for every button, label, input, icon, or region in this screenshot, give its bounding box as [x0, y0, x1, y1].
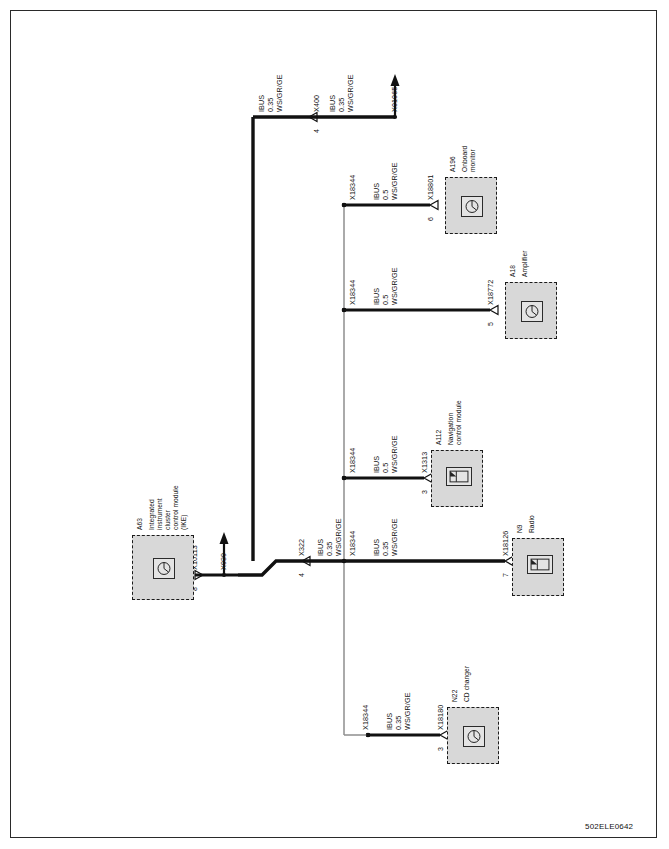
connector-label-x18126: X18126 [502, 531, 510, 556]
component-ref-cd-changer: N22 [451, 690, 459, 702]
component-box-navigation[interactable] [431, 450, 483, 507]
wire-color: WS/GR/GE [276, 74, 284, 112]
wire-bus-name: IBUS [258, 95, 266, 112]
wiring-lines [0, 0, 669, 849]
component-box-amplifier[interactable] [505, 282, 557, 339]
connector-label-x01065: X01065 [391, 87, 399, 112]
wire-label-ike-gauge: 0.35 [326, 542, 334, 556]
module-round-icon [461, 196, 483, 217]
wire-label-nav-gauge: 0.5 [382, 463, 390, 473]
junction-x01065 [393, 115, 397, 119]
pin-label-x18801: 6 [427, 217, 434, 221]
splice-label-x18344-main: X18344 [349, 531, 357, 556]
connector-label-x322: X322 [298, 539, 306, 556]
component-box-cd-changer[interactable] [447, 707, 499, 764]
wire-label-monitor-color: WS/GR/GE [391, 162, 399, 200]
wire-label-top-left: IBUS [258, 95, 266, 112]
wire-label-cd-bus: IBUS [386, 713, 394, 730]
wire-label-top-left-color: WS/GR/GE [276, 74, 284, 112]
connector-label-x18801: X18801 [427, 175, 435, 200]
component-name-ike-l2: instrument [156, 498, 164, 530]
component-ref-navigation: A112 [435, 430, 443, 445]
pin-label-x322: 4 [298, 573, 305, 577]
component-name-onboard-monitor-l1: Onboard [461, 146, 469, 172]
component-name-ike-l1: Integrated [148, 499, 156, 530]
wire-label-cd-color: WS/GR/GE [404, 692, 412, 730]
wire-label-radio-gauge: 0.35 [382, 542, 390, 556]
wire-gauge: 0.35 [267, 98, 275, 112]
connector-label-x18180: X18180 [437, 705, 445, 730]
connector-marker-x18772 [490, 306, 498, 315]
wire-label-ike-color: WS/GR/GE [335, 518, 343, 556]
connector-label-x18772: X18772 [487, 280, 495, 305]
wire-label-top-right: IBUS [329, 95, 337, 112]
connector-label-x939: X939 [220, 553, 228, 570]
component-ref-onboard-monitor: A196 [449, 156, 457, 172]
connector-marker-x18801 [430, 201, 438, 210]
module-round-icon [153, 558, 175, 579]
module-screen-icon [527, 555, 553, 574]
pin-label-x18126: 7 [502, 573, 509, 577]
pin-label-x18772: 5 [487, 322, 494, 326]
component-name-navigation-l1: Navigation [447, 413, 455, 445]
endcap-cdchanger [366, 733, 370, 737]
component-box-radio[interactable] [512, 538, 564, 596]
component-box-ike[interactable] [132, 535, 194, 600]
wire-label-radio-bus: IBUS [373, 539, 381, 556]
connector-label-x1313: X1313 [421, 452, 429, 473]
endcap-monitor [342, 203, 346, 207]
module-round-icon [521, 301, 543, 322]
component-name-onboard-monitor-l2: monitor [469, 149, 477, 172]
component-name-ike-l4: control module [172, 485, 180, 530]
wire-label-amp-color: WS/GR/GE [391, 267, 399, 305]
wire-label-ike-bus: IBUS [317, 539, 325, 556]
connector-label-x400: X400 [313, 95, 321, 112]
splice-label-x18344-navigation: X18344 [349, 448, 357, 473]
component-ref-amplifier: A18 [509, 265, 517, 277]
wire-label-radio-color: WS/GR/GE [391, 518, 399, 556]
wire-label-amp-bus: IBUS [373, 288, 381, 305]
junction-main-splice [342, 559, 347, 564]
wire-x939-arrowhead [220, 532, 229, 544]
component-name-ike-l5: (IKE) [180, 514, 188, 530]
wire-label-top-right-color: WS/GR/GE [347, 74, 355, 112]
wire-label-nav-color: WS/GR/GE [391, 435, 399, 473]
component-name-radio: Radio [528, 515, 536, 533]
splice-label-x18344-amplifier: X18344 [349, 280, 357, 305]
figure-code: 502ELE0642 [585, 822, 633, 831]
wire-label-monitor-gauge: 0.5 [382, 190, 390, 200]
wire-label-top-right-gauge: 0.35 [338, 98, 346, 112]
module-screen-icon [446, 467, 472, 486]
junction-x939 [222, 573, 226, 577]
component-ref-radio: N9 [516, 524, 524, 533]
endcap-navigation [342, 476, 346, 480]
component-name-amplifier: Amplifier [521, 250, 529, 277]
pin-label-x400: 4 [313, 129, 320, 133]
component-name-ike-l3: cluster [164, 510, 172, 530]
wire-label-nav-bus: IBUS [373, 456, 381, 473]
component-ref-ike: A63 [136, 518, 144, 530]
wire-label-monitor-bus: IBUS [373, 183, 381, 200]
endcap-amplifier [342, 308, 346, 312]
component-box-onboard-monitor[interactable] [445, 177, 497, 234]
splice-label-x18344-cdchanger: X18344 [362, 705, 370, 730]
diagram-sheet: IBUS 0.35 WS/GR/GE X400 4 IBUS 0.35 WS/G… [0, 0, 669, 849]
wire-label-cd-gauge: 0.35 [395, 716, 403, 730]
splice-label-x18344-monitor: X18344 [349, 175, 357, 200]
pin-label-x18180: 3 [437, 747, 444, 751]
component-name-cd-changer: CD changer [463, 666, 471, 702]
wire-label-amp-gauge: 0.5 [382, 295, 390, 305]
module-round-icon [463, 726, 485, 747]
wire-x01065-arrowhead [391, 74, 400, 86]
pin-label-x1313: 3 [421, 490, 428, 494]
component-name-navigation-l2: control module [455, 400, 463, 445]
wire-main-bus [238, 561, 505, 575]
wire-label-top-left-gauge: 0.35 [267, 98, 275, 112]
